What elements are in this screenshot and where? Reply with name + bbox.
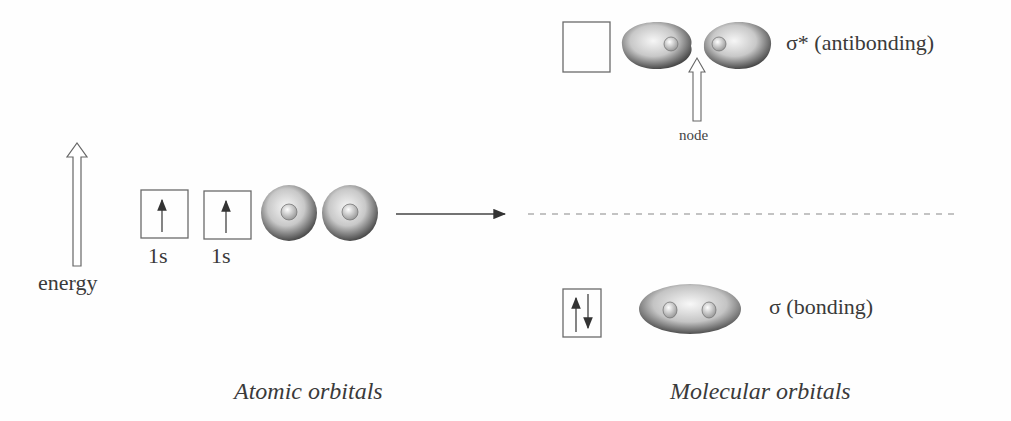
atomic-orbital-sphere-b [322,185,378,241]
orbital-label-1s-a: 1s [148,243,168,269]
orbital-box-1s-a [141,190,188,238]
molecular-orbitals-caption: Molecular orbitals [670,378,851,405]
atomic-orbital-sphere-a [261,185,317,241]
orbital-diagram [0,0,1011,421]
antibonding-label: σ* (antibonding) [786,30,934,56]
orbital-label-1s-b: 1s [211,243,231,269]
orbital-box-bonding [563,289,601,337]
node-arrow-icon [689,58,705,121]
antibonding-lobe-right [704,22,771,69]
energy-arrow-icon [67,143,87,266]
orbital-box-1s-b [204,191,251,239]
atomic-orbitals-caption: Atomic orbitals [234,378,383,405]
energy-label: energy [38,270,97,296]
bonding-orbital-ellipse [639,284,741,334]
node-label: node [679,127,708,144]
bonding-label: σ (bonding) [769,294,873,320]
antibonding-lobe-left [622,22,692,69]
orbital-box-antibonding [563,22,610,72]
